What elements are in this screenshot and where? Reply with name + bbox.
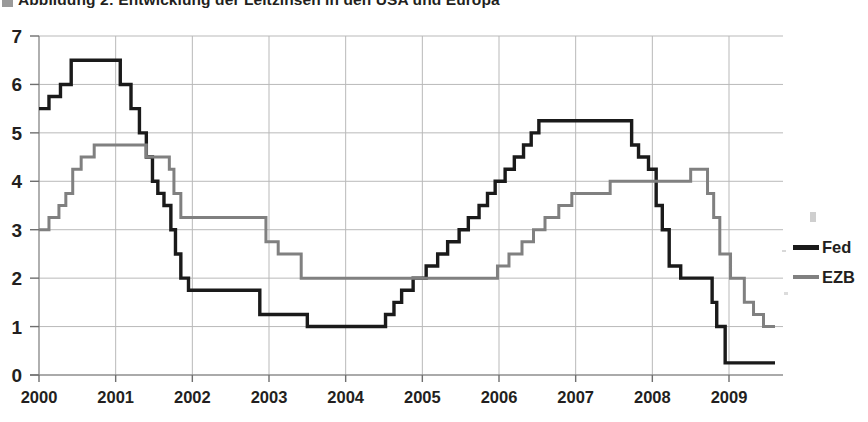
scan-artifact-fleck <box>782 250 786 252</box>
x-axis-tick-label: 2000 <box>21 388 58 406</box>
y-axis-tick-label: 3 <box>11 220 22 241</box>
chart-screenshot: Abbildung 2: Entwicklung der Leitzinsen … <box>0 0 868 422</box>
legend-item-fed: Fed <box>793 232 865 262</box>
legend-swatch-fed <box>793 245 819 250</box>
y-axis-tick-label: 6 <box>11 74 22 95</box>
x-axis-tick-label: 2005 <box>404 388 441 406</box>
y-axis-tick-label: 7 <box>11 26 22 47</box>
axis-ticks <box>30 36 729 382</box>
scan-artifact-speck <box>810 212 816 222</box>
y-axis-tick-label: 4 <box>11 171 22 192</box>
y-axis-tick-label: 1 <box>11 317 22 338</box>
x-axis-tick-label: 2007 <box>557 388 594 406</box>
legend-item-ezb: EZB <box>793 262 865 292</box>
legend-label-fed: Fed <box>822 239 851 256</box>
x-axis-tick-label: 2001 <box>97 388 134 406</box>
chart-legend: Fed EZB <box>793 232 865 292</box>
y-axis-tick-label: 0 <box>11 365 22 386</box>
x-axis-tick-label: 2006 <box>481 388 518 406</box>
grid-lines <box>39 36 783 375</box>
y-axis-tick-label: 5 <box>11 123 22 144</box>
x-axis-tick-label: 2008 <box>634 388 671 406</box>
legend-label-ezb: EZB <box>822 269 855 286</box>
x-axis-tick-label: 2009 <box>711 388 748 406</box>
axis-lines <box>30 36 783 375</box>
x-axis-tick-label: 2003 <box>251 388 288 406</box>
y-axis-tick-label: 2 <box>11 268 22 289</box>
scan-artifact-fleck-lower <box>784 292 788 295</box>
x-axis-tick-label: 2002 <box>174 388 211 406</box>
legend-swatch-ezb <box>793 275 819 279</box>
data-series-layer <box>39 60 775 363</box>
interest-rate-line-chart: 7654321020002001200220032004200520062007… <box>0 0 868 422</box>
x-axis-tick-label: 2004 <box>327 388 365 406</box>
